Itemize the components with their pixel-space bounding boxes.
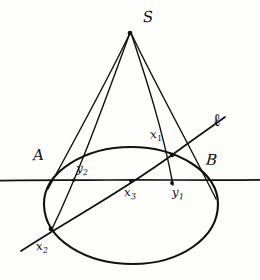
point-x2-dot bbox=[49, 227, 54, 232]
point-x1-dot bbox=[170, 153, 175, 158]
point-S-dot bbox=[128, 31, 133, 36]
line-S-through-y2-to-x2 bbox=[52, 33, 130, 229]
label-A: A bbox=[33, 148, 45, 164]
label-B: B bbox=[205, 153, 217, 169]
label-S: S bbox=[142, 10, 153, 26]
label-x1: x1 bbox=[149, 127, 163, 144]
point-y2-dot bbox=[72, 178, 75, 181]
label-y2: y2 bbox=[76, 162, 89, 178]
line-S-through-x1-to-y1 bbox=[131, 33, 173, 185]
line-S-to-A bbox=[48, 33, 130, 189]
diagram-canvas: S A B ℓ x1 x2 x3 y1 y2 bbox=[0, 0, 260, 280]
label-y1: y1 bbox=[172, 186, 184, 202]
point-x3-dot bbox=[129, 179, 133, 183]
ellipse-conic bbox=[44, 147, 218, 264]
label-x2: x2 bbox=[35, 239, 48, 256]
geometry-figure bbox=[0, 0, 260, 280]
label-x3: x3 bbox=[123, 186, 136, 202]
